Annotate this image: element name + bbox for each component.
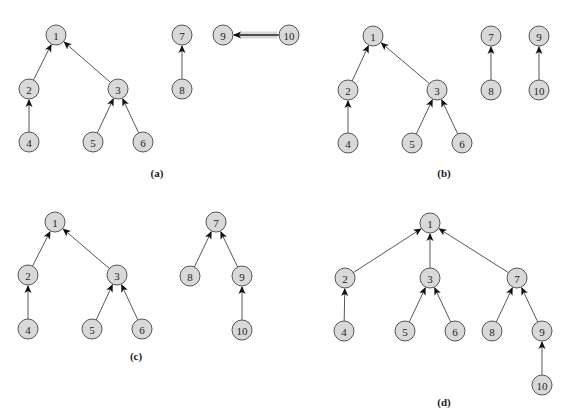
edge-2-to-1-arrow-icon [352, 46, 368, 81]
node-label: 1 [52, 217, 58, 229]
node-label: 9 [536, 31, 542, 43]
node-label: 2 [26, 84, 32, 96]
node-9: 9 [529, 26, 549, 46]
node-1: 1 [45, 212, 65, 232]
edge-8-to-7-arrow-icon [194, 232, 211, 267]
node-5: 5 [402, 133, 422, 153]
node-label: 10 [284, 30, 296, 42]
edge-3-to-1-arrow-icon [64, 42, 110, 82]
node-label: 8 [179, 84, 185, 96]
node-label: 5 [89, 324, 95, 336]
node-label: 10 [534, 85, 546, 97]
node-label: 3 [427, 273, 433, 285]
node-label: 2 [25, 270, 31, 282]
node-6: 6 [445, 321, 465, 341]
edge-2-to-1-arrow-icon [33, 232, 50, 266]
node-10: 10 [529, 80, 549, 100]
node-label: 4 [26, 137, 32, 149]
node-label: 6 [140, 137, 146, 149]
node-8: 8 [482, 321, 502, 341]
node-label: 4 [25, 324, 31, 336]
node-5: 5 [395, 321, 415, 341]
node-3: 3 [420, 268, 440, 288]
node-10: 10 [532, 375, 552, 395]
edge-2-to-1-arrow-icon [353, 229, 420, 273]
edge-6-to-3-arrow-icon [435, 288, 451, 322]
panel-label: (c) [130, 350, 143, 363]
edge-8-to-7-arrow-icon [496, 288, 512, 322]
node-label: 5 [409, 138, 415, 150]
node-label: 1 [53, 30, 59, 42]
node-9: 9 [213, 25, 233, 45]
node-label: 1 [427, 218, 433, 230]
edge-5-to-3-arrow-icon [97, 99, 113, 133]
panel-label: (b) [437, 167, 451, 180]
node-label: 10 [237, 325, 249, 337]
node-4: 4 [19, 132, 39, 152]
node-label: 4 [345, 138, 351, 150]
node-5: 5 [83, 132, 103, 152]
node-10: 10 [279, 25, 299, 45]
node-label: 3 [434, 85, 440, 97]
node-label: 7 [213, 217, 219, 229]
node-label: 5 [90, 137, 96, 149]
node-label: 2 [345, 85, 351, 97]
edge-2-to-1-arrow-icon [33, 45, 51, 80]
node-5: 5 [82, 319, 102, 339]
node-label: 1 [370, 31, 376, 43]
node-4: 4 [338, 133, 358, 153]
node-2: 2 [18, 265, 38, 285]
node-8: 8 [481, 80, 501, 100]
node-4: 4 [18, 319, 38, 339]
node-label: 8 [488, 85, 494, 97]
edge-3-to-1-arrow-icon [381, 43, 429, 83]
panel-a: 12345678910(a) [19, 25, 299, 180]
node-7: 7 [206, 212, 226, 232]
edge-6-to-3-arrow-icon [442, 100, 458, 134]
panel-c: 12345678910(c) [18, 212, 252, 363]
node-4: 4 [334, 321, 354, 341]
node-label: 8 [489, 326, 495, 338]
panel-label: (a) [151, 167, 164, 180]
edge-7-to-1-arrow-icon [439, 229, 508, 273]
node-9: 9 [232, 266, 252, 286]
node-2: 2 [19, 79, 39, 99]
node-6: 6 [133, 132, 153, 152]
node-label: 5 [402, 326, 408, 338]
edges [29, 32, 279, 133]
node-label: 9 [239, 271, 245, 283]
node-label: 10 [537, 380, 549, 392]
node-9: 9 [532, 321, 552, 341]
node-label: 9 [220, 30, 226, 42]
edge-3-to-1-arrow-icon [63, 229, 109, 268]
node-label: 3 [115, 84, 121, 96]
node-3: 3 [108, 79, 128, 99]
edge-9-to-7-arrow-icon [221, 232, 238, 267]
node-7: 7 [481, 26, 501, 46]
node-1: 1 [46, 25, 66, 45]
node-label: 7 [179, 30, 185, 42]
node-10: 10 [232, 320, 252, 340]
node-label: 8 [187, 271, 193, 283]
node-label: 3 [114, 270, 120, 282]
edge-4-to-2-arrow-icon [344, 289, 345, 321]
edge-5-to-3-arrow-icon [409, 288, 425, 322]
panels-root: 12345678910(a)12345678910(b)12345678910(… [18, 25, 552, 409]
panel-b: 12345678910(b) [338, 26, 549, 180]
node-1: 1 [420, 213, 440, 233]
node-label: 4 [341, 326, 347, 338]
node-label: 7 [514, 273, 520, 285]
panel-d: 12345678910(d) [334, 213, 552, 409]
node-label: 7 [488, 31, 494, 43]
edge-5-to-3-arrow-icon [96, 285, 112, 320]
node-label: 6 [459, 138, 465, 150]
node-6: 6 [132, 319, 152, 339]
node-label: 9 [539, 326, 545, 338]
edge-5-to-3-arrow-icon [416, 100, 432, 134]
node-3: 3 [427, 80, 447, 100]
node-label: 6 [139, 324, 145, 336]
node-3: 3 [107, 265, 127, 285]
union-find-diagram: 12345678910(a)12345678910(b)12345678910(… [0, 0, 572, 416]
node-label: 6 [452, 326, 458, 338]
node-label: 2 [342, 273, 348, 285]
